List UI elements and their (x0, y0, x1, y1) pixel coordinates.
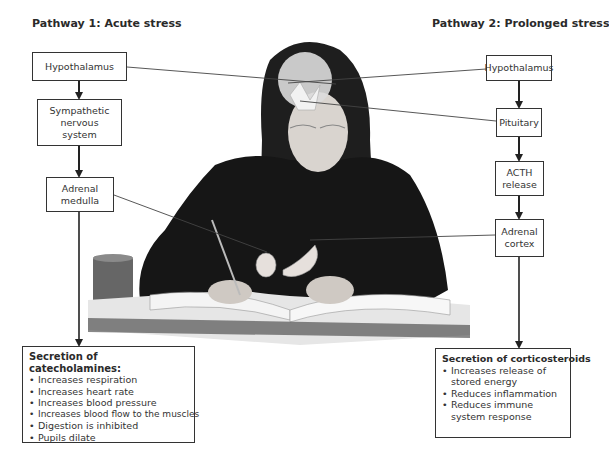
effect-item: Pupils dilate (29, 432, 188, 444)
p1-sympathetic-label: Sympathetic nervous system (48, 105, 112, 141)
effect-item: Increases blood pressure (29, 397, 188, 409)
effect-item: Increases blood flow to the muscles (29, 409, 188, 421)
p2-hypothalamus-label: Hypothalamus (485, 62, 554, 74)
p2-acth-label: ACTH release (500, 167, 540, 191)
p1-adrenal-medulla-label: Adrenal medulla (55, 183, 105, 207)
p2-acth-box: ACTH release (495, 161, 544, 196)
catecholamines-box: Secretion of catecholamines: Increases r… (22, 346, 195, 443)
p1-hypothalamus-box: Hypothalamus (32, 52, 127, 81)
p2-pituitary-label: Pituitary (499, 117, 539, 129)
p1-hypothalamus-label: Hypothalamus (45, 61, 114, 73)
corticosteroids-effects: Increases release of stored energy Reduc… (442, 365, 564, 423)
effect-item: Increases release of stored energy (442, 365, 564, 388)
catecholamines-heading: Secretion of catecholamines: (29, 351, 188, 374)
p2-pituitary-box: Pituitary (496, 108, 542, 137)
p1-adrenal-medulla-box: Adrenal medulla (46, 177, 114, 212)
p2-hypothalamus-box: Hypothalamus (486, 55, 552, 81)
pointer-pituitary (300, 101, 496, 121)
corticosteroids-box: Secretion of corticosteroids Increases r… (435, 348, 571, 438)
p2-adrenal-cortex-label: Adrenal cortex (500, 226, 540, 250)
pointer-right-hypothalamus (288, 69, 486, 83)
pointer-adrenal-medulla (114, 195, 267, 252)
pointer-adrenal-cortex (310, 235, 495, 240)
p2-adrenal-cortex-box: Adrenal cortex (495, 219, 544, 257)
effect-item: Increases respiration (29, 374, 188, 386)
p1-sympathetic-box: Sympathetic nervous system (37, 99, 122, 146)
effect-item: Digestion is inhibited (29, 420, 188, 432)
catecholamines-effects: Increases respiration Increases heart ra… (29, 374, 188, 443)
effect-item: Reduces inflammation (442, 388, 564, 400)
effect-item: Reduces immune system response (442, 399, 564, 422)
effect-item: Increases heart rate (29, 386, 188, 398)
corticosteroids-heading: Secretion of corticosteroids (442, 353, 564, 365)
